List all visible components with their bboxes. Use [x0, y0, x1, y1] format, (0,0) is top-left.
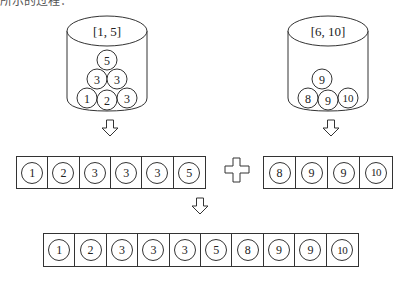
bucket-left-label: [1, 5] — [93, 24, 121, 39]
array-cell: 9 — [296, 157, 328, 188]
ball: 10 — [365, 162, 387, 184]
ball: 3 — [84, 162, 106, 184]
sorted-row-left: 1 2 3 3 3 5 — [16, 156, 206, 189]
ball: 3 — [174, 239, 196, 261]
sorted-row-right: 8 9 9 10 — [263, 156, 393, 189]
ball: 3 — [115, 162, 137, 184]
array-cell: 9 — [328, 157, 360, 188]
ball: 9 — [299, 239, 321, 261]
ball: 1 — [21, 162, 43, 184]
ball: 8 — [305, 92, 311, 106]
array-cell: 3 — [111, 157, 142, 188]
ball: 5 — [178, 162, 200, 184]
ball: 3 — [94, 73, 100, 87]
array-cell: 3 — [138, 234, 169, 266]
array-cell: 9 — [295, 234, 326, 266]
array-cell: 5 — [174, 157, 205, 188]
ball: 3 — [146, 162, 168, 184]
ball: 8 — [269, 162, 291, 184]
ball: 2 — [104, 94, 110, 108]
ball: 3 — [124, 92, 130, 106]
down-arrow-icon — [100, 119, 120, 138]
ball: 9 — [301, 162, 323, 184]
array-cell: 2 — [75, 234, 106, 266]
array-cell: 3 — [142, 157, 173, 188]
ball: 9 — [333, 162, 355, 184]
ball: 9 — [325, 94, 331, 108]
bucket-right-label: [6, 10] — [311, 24, 346, 39]
ball: 10 — [343, 92, 355, 104]
ball: 3 — [111, 239, 133, 261]
ball: 1 — [48, 239, 70, 261]
ball: 10 — [331, 239, 353, 261]
ball: 2 — [80, 239, 102, 261]
plus-icon — [223, 156, 251, 184]
array-cell: 3 — [170, 234, 201, 266]
ball: 2 — [52, 162, 74, 184]
down-arrow-icon — [190, 197, 210, 216]
down-arrow-icon — [321, 119, 341, 138]
array-cell: 9 — [264, 234, 295, 266]
bucket-left-balls: 5 3 3 1 3 2 — [77, 50, 137, 110]
array-cell: 3 — [80, 157, 111, 188]
array-cell: 1 — [44, 234, 75, 266]
cutoff-caption: 所示的过程： — [0, 0, 72, 8]
ball: 3 — [142, 239, 164, 261]
array-cell: 10 — [327, 234, 358, 266]
bucket-right: [6, 10] 9 8 10 9 — [281, 10, 376, 118]
array-cell: 8 — [232, 234, 263, 266]
merged-row: 1 2 3 3 3 5 8 9 9 10 — [43, 233, 359, 267]
array-cell: 1 — [17, 157, 48, 188]
ball: 5 — [205, 239, 227, 261]
array-cell: 8 — [264, 157, 296, 188]
ball: 9 — [319, 73, 325, 87]
ball: 8 — [237, 239, 259, 261]
array-cell: 5 — [201, 234, 232, 266]
bucket-left: [1, 5] 5 3 3 1 3 2 — [60, 10, 155, 118]
ball: 5 — [104, 54, 110, 68]
ball: 9 — [268, 239, 290, 261]
array-cell: 2 — [48, 157, 79, 188]
array-cell: 3 — [107, 234, 138, 266]
ball: 3 — [114, 73, 120, 87]
array-cell: 10 — [360, 157, 392, 188]
ball: 1 — [84, 92, 90, 106]
bucket-right-balls: 9 8 10 9 — [298, 69, 358, 110]
